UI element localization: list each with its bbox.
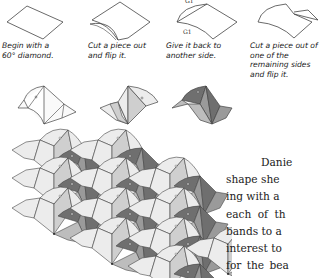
caption-line: Cut a piece out xyxy=(88,41,146,51)
body-line: Danie xyxy=(226,154,292,171)
step-2-diagram xyxy=(82,0,162,45)
body-text: Danie shape she ing with a each of th ba… xyxy=(226,154,292,274)
step-4-diagram xyxy=(250,0,329,45)
body-line: each of th xyxy=(226,206,292,223)
cut-flip-shape-icon xyxy=(82,0,162,45)
step-4-caption: Cut a piece out of one of the remaining … xyxy=(250,41,318,79)
body-line: bands to a xyxy=(226,223,292,240)
diamond-shape-icon xyxy=(0,0,80,45)
step-3-caption: Give it back to another side. xyxy=(166,41,221,60)
body-line: for the bea xyxy=(226,257,292,274)
step-3-diagram: G1 G1 xyxy=(165,0,245,45)
step-1-caption: Begin with a 60° diamond. xyxy=(2,41,54,60)
g1-label-top: G1 xyxy=(185,0,194,4)
body-line: interest to xyxy=(226,240,292,257)
dark-tile-icon xyxy=(170,84,240,126)
caption-line: Cut a piece out of xyxy=(250,41,318,51)
shaded-tile-icon xyxy=(98,84,168,126)
caption-line: and flip it. xyxy=(88,51,146,61)
tessellation-pattern-icon xyxy=(0,128,232,278)
caption-line: and flip it. xyxy=(250,70,318,80)
caption-line: remaining sides xyxy=(250,60,318,70)
tile-variant-shaded xyxy=(98,84,168,126)
body-line: shape she xyxy=(226,171,292,188)
outline-tile-icon xyxy=(14,84,84,126)
tile-variant-outline xyxy=(14,84,84,126)
caption-line: Give it back to xyxy=(166,41,221,51)
second-cut-shape-icon xyxy=(250,0,329,45)
caption-line: 60° diamond. xyxy=(2,51,54,61)
step-2-caption: Cut a piece out and flip it. xyxy=(88,41,146,60)
tessellation-figure xyxy=(0,128,232,278)
step-1-diagram xyxy=(0,0,80,45)
tile-variant-dark xyxy=(170,84,240,126)
caption-line: Begin with a xyxy=(2,41,54,51)
caption-line: another side. xyxy=(166,51,221,61)
give-back-shape-icon: G1 G1 xyxy=(165,0,245,45)
g1-label-bottom: G1 xyxy=(183,28,192,35)
body-line: ing with a xyxy=(226,188,292,205)
caption-line: one of the xyxy=(250,51,318,61)
